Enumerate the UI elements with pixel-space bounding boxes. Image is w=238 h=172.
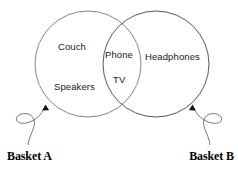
venn-circle-left <box>35 11 141 117</box>
callout-arrowhead-left <box>42 105 49 111</box>
venn-diagram-canvas: Couch Speakers Phone TV Headphones Baske… <box>0 0 238 172</box>
callout-arrow-left <box>16 107 45 145</box>
venn-item-headphones: Headphones <box>145 51 200 62</box>
callout-arrow-right <box>193 107 222 145</box>
venn-circle-right <box>103 11 209 117</box>
basket-a-label: Basket A <box>7 149 52 164</box>
callout-arrowhead-right <box>189 105 196 111</box>
venn-diagram-graphics <box>0 0 238 172</box>
venn-item-couch: Couch <box>58 41 86 52</box>
venn-item-phone: Phone <box>105 49 133 60</box>
venn-item-speakers: Speakers <box>54 81 95 92</box>
venn-item-tv: TV <box>113 74 125 85</box>
basket-b-label: Basket B <box>189 149 234 164</box>
